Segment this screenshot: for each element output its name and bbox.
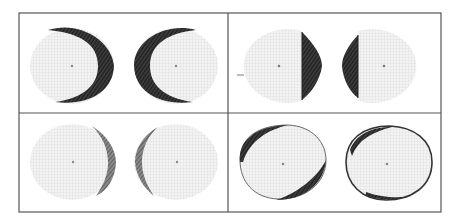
half-field-defect [342, 35, 358, 98]
fixation-point [175, 65, 177, 67]
visual-field-right-eye [134, 124, 218, 200]
fixation-point [176, 161, 178, 163]
fixation-point [386, 163, 389, 166]
visual-field-right-eye [346, 126, 432, 200]
visual-field-left-eye [30, 27, 114, 104]
panel-bottom-left [30, 124, 218, 200]
visual-field-right-eye [342, 29, 416, 103]
fixation-point [282, 163, 285, 166]
panel-bottom-right [240, 125, 432, 200]
half-field-defect [302, 32, 322, 100]
visual-field-left-eye [30, 124, 116, 200]
visual-field-left-eye [237, 29, 322, 103]
fixation-point [278, 65, 281, 68]
visual-field-left-eye [240, 125, 326, 200]
fixation-point [383, 65, 386, 68]
visual-field-right-eye [134, 28, 218, 104]
fixation-point [72, 161, 74, 163]
fixation-point [71, 65, 73, 67]
figure-canvas [0, 0, 460, 223]
panel-top-right [237, 29, 416, 103]
visual-field-figure [0, 0, 460, 223]
panel-top-left [30, 27, 218, 104]
